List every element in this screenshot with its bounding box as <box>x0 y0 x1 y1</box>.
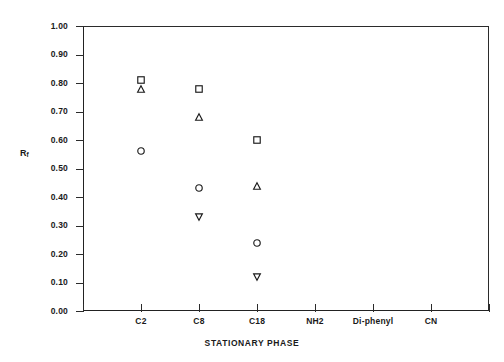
y-axis-tick <box>76 112 84 113</box>
y-axis-tick <box>76 26 84 27</box>
x-axis-line <box>83 310 489 311</box>
y-axis-tick <box>76 140 84 141</box>
data-point-triangle-down-c8 <box>195 213 203 221</box>
x-axis-edge-tick <box>489 304 490 312</box>
y-axis-tick <box>76 254 84 255</box>
x-axis-tick <box>431 304 432 312</box>
y-axis-tick <box>76 83 84 84</box>
x-axis-tick <box>315 304 316 312</box>
data-point-triangle-up-c8 <box>195 113 203 121</box>
x-axis-tick-label-nh2: NH2 <box>306 316 324 326</box>
y-axis-tick-label: 1.00 <box>32 21 68 31</box>
y-axis-tick-label: 0.70 <box>32 106 68 116</box>
x-axis-tick <box>199 304 200 312</box>
data-point-triangle-up-c2 <box>137 85 145 93</box>
x-axis-tick <box>141 304 142 312</box>
y-axis-tick <box>76 55 84 56</box>
y-axis-tick-label: 0.90 <box>32 49 68 59</box>
x-axis-tick-label-c18: C18 <box>249 316 265 326</box>
y-axis-tick-label: 0.50 <box>32 163 68 173</box>
x-axis-tick-label-cn: CN <box>425 316 438 326</box>
y-axis-tick <box>76 283 84 284</box>
y-axis-title-subscript: f <box>27 151 29 158</box>
data-point-square-c8 <box>195 85 203 93</box>
data-point-circle-c18 <box>253 239 261 247</box>
x-axis-tick-label-c2: C2 <box>135 316 146 326</box>
y-axis-tick-label: 0.20 <box>32 249 68 259</box>
y-axis-tick-label: 0.80 <box>32 78 68 88</box>
data-point-square-c18 <box>253 136 261 144</box>
y-axis-tick <box>76 226 84 227</box>
data-point-circle-c8 <box>195 184 203 192</box>
x-axis-title: STATIONARY PHASE <box>0 338 504 348</box>
y-axis-tick <box>76 169 84 170</box>
data-point-square-c2 <box>137 76 145 84</box>
x-axis-tick <box>373 304 374 312</box>
x-axis-tick-label-di-phenyl: Di-phenyl <box>353 316 394 326</box>
y-axis-tick-label: 0.30 <box>32 220 68 230</box>
y-axis-title: Rf <box>20 148 29 158</box>
data-point-triangle-up-c18 <box>253 182 261 190</box>
x-axis-tick <box>257 304 258 312</box>
y-axis-tick-label: 0.00 <box>32 306 68 316</box>
x-axis-tick-label-c8: C8 <box>193 316 204 326</box>
x-axis-edge-tick <box>83 304 84 312</box>
y-axis-tick-label: 0.60 <box>32 135 68 145</box>
data-point-triangle-down-c18 <box>253 273 261 281</box>
y-axis-tick <box>76 197 84 198</box>
y-axis-tick-label: 0.10 <box>32 277 68 287</box>
chart-figure: 1.000.900.800.700.600.500.400.300.200.10… <box>0 0 504 362</box>
plot-area-frame <box>83 26 489 311</box>
data-point-circle-c2 <box>137 147 145 155</box>
y-axis-tick-label: 0.40 <box>32 192 68 202</box>
